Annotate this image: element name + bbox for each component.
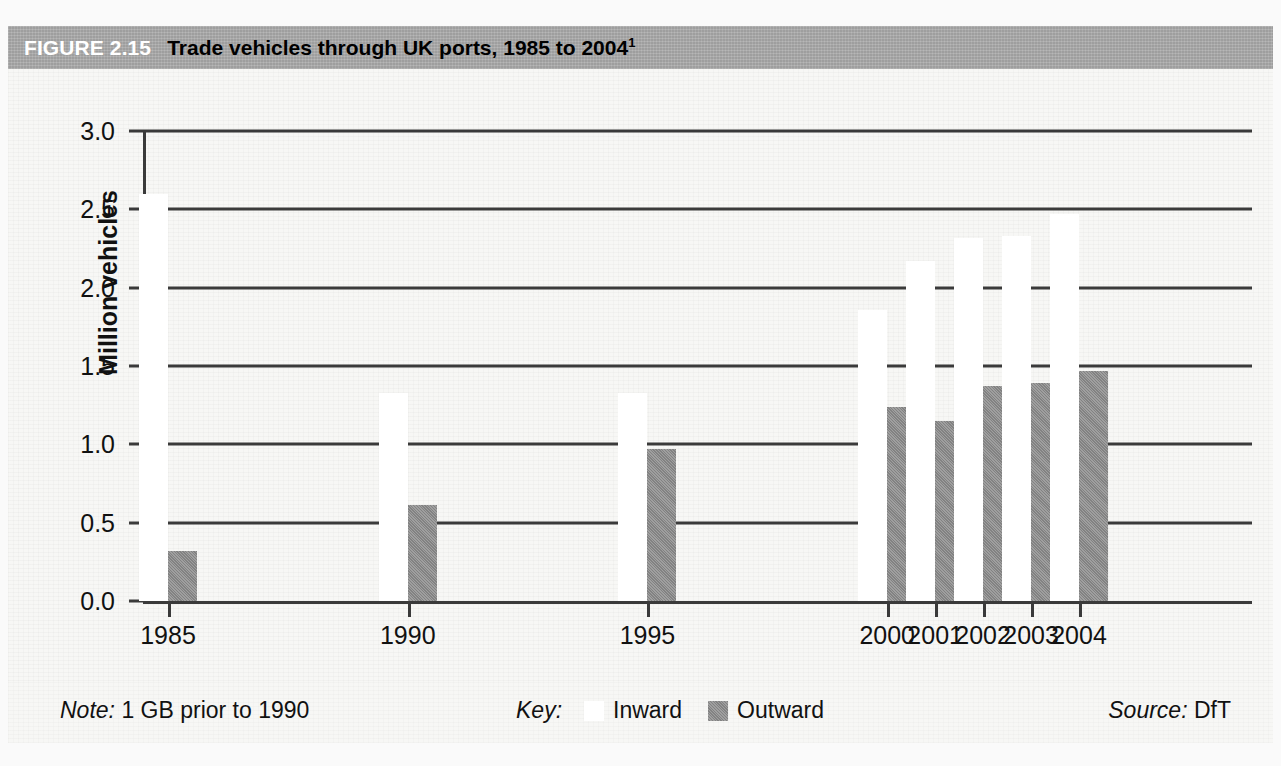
figure-title-footnote-marker: 1 [628,35,635,50]
y-tick-label-1.0: 1.0 [51,430,115,459]
source-label: Source: [1108,697,1187,723]
x-tick-label-1985: 1985 [98,621,238,650]
x-tick-mark-1990 [408,604,411,617]
x-tick-label-1990: 1990 [338,621,478,650]
figure-title: Trade vehicles through UK ports, 1985 to… [167,35,635,60]
x-tick-mark-1985 [168,604,171,617]
note-text: 1 GB prior to 1990 [121,697,309,723]
gridline-2.0 [143,286,1252,289]
gridline-3.0 [143,130,1252,133]
x-tick-mark-1995 [647,604,650,617]
bar-outward-1985[interactable] [168,551,197,601]
x-tick-mark-2002 [983,604,986,617]
y-tick-label-3.0: 3.0 [51,117,115,146]
figure-footer: Note: 1 GB prior to 1990 Key: Inward Out… [8,681,1273,743]
bar-inward-1985[interactable] [139,194,168,601]
bar-inward-2004[interactable] [1050,214,1079,601]
x-tick-mark-2003 [1031,604,1034,617]
bar-inward-1990[interactable] [379,393,408,601]
gridline-1.5 [143,365,1252,368]
figure-note: Note: 1 GB prior to 1990 [60,697,309,724]
bar-inward-2002[interactable] [954,238,983,601]
x-tick-label-2004: 2004 [1009,621,1149,650]
figure-title-text: Trade vehicles through UK ports, 1985 to… [167,36,628,59]
figure-container: FIGURE 2.15 Trade vehicles through UK po… [0,0,1281,766]
x-tick-mark-2000 [887,604,890,617]
bar-outward-2004[interactable] [1079,371,1108,601]
legend-swatch-inward-icon [584,701,604,721]
bar-inward-2003[interactable] [1002,236,1031,601]
bar-outward-1990[interactable] [408,505,437,601]
chart-legend: Key: Inward Outward [516,697,824,724]
x-axis-line [143,601,1252,604]
legend-label: Key: [516,697,562,724]
y-tick-label-0.0: 0.0 [51,587,115,616]
legend-item-outward[interactable]: Outward [708,697,824,724]
source-text: DfT [1194,697,1231,723]
y-tick-label-0.5: 0.5 [51,508,115,537]
x-tick-mark-2001 [935,604,938,617]
x-tick-mark-2004 [1079,604,1082,617]
figure-source: Source: DfT [1108,697,1231,724]
legend-item-inward[interactable]: Inward [584,697,682,724]
figure-title-bar: FIGURE 2.15 Trade vehicles through UK po… [8,26,1273,69]
x-tick-label-1995: 1995 [577,621,717,650]
legend-text-outward: Outward [737,697,824,724]
bar-inward-1995[interactable] [618,393,647,601]
bar-inward-2000[interactable] [858,310,887,601]
bar-inward-2001[interactable] [906,261,935,601]
y-tick-mark-3.0 [129,130,143,133]
y-axis-title: Million vehicles [94,163,123,403]
gridline-2.5 [143,208,1252,211]
bar-outward-1995[interactable] [647,449,676,601]
legend-text-inward: Inward [613,697,682,724]
figure-number: FIGURE 2.15 [24,36,151,60]
legend-swatch-outward-icon [708,701,728,721]
note-label: Note: [60,697,115,723]
